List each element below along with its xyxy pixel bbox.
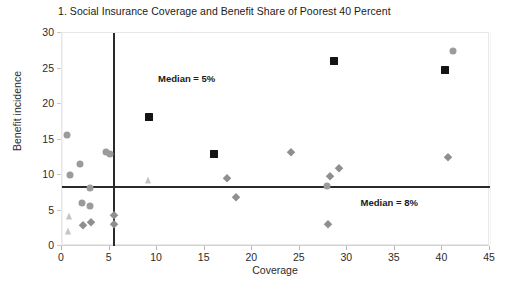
x-tick-label: 35: [379, 251, 409, 263]
y-tick-label: 0: [32, 239, 54, 251]
y-tick-label: 5: [32, 204, 54, 216]
data-point-diamond: [335, 164, 343, 172]
x-axis-title: Coverage: [61, 264, 489, 276]
data-point-diamond: [444, 153, 452, 161]
y-axis-title: Benefit incidence: [11, 51, 23, 171]
data-point-circle: [106, 151, 113, 158]
median-coverage-label: Median = 5%: [158, 73, 215, 84]
data-point-square: [330, 57, 338, 65]
x-axis-line: [61, 245, 489, 246]
data-point-circle: [86, 185, 93, 192]
x-tick-label: 0: [46, 251, 76, 263]
data-point-diamond: [79, 222, 87, 230]
data-point-diamond: [87, 218, 95, 226]
median-benefit-incidence-line: [62, 186, 490, 188]
data-point-diamond: [224, 174, 232, 182]
data-point-diamond: [232, 193, 240, 201]
data-point-square: [441, 66, 449, 74]
data-point-square: [210, 150, 218, 158]
x-tick-mark: [156, 246, 157, 250]
data-point-circle: [449, 47, 456, 54]
x-tick-label: 20: [236, 251, 266, 263]
data-point-diamond: [326, 173, 334, 181]
x-tick-mark: [346, 246, 347, 250]
y-tick-label: 10: [32, 168, 54, 180]
x-tick-label: 15: [189, 251, 219, 263]
x-tick-mark: [251, 246, 252, 250]
median-benefit-incidence-label: Median = 8%: [361, 197, 418, 208]
chart-figure: 1. Social Insurance Coverage and Benefit…: [0, 0, 516, 291]
chart-title: 1. Social Insurance Coverage and Benefit…: [58, 5, 391, 17]
x-tick-mark: [394, 246, 395, 250]
x-tick-label: 40: [426, 251, 456, 263]
x-tick-label: 5: [94, 251, 124, 263]
y-tick-label: 25: [32, 62, 54, 74]
x-tick-mark: [109, 246, 110, 250]
plot-area: [61, 32, 489, 245]
data-point-circle: [63, 132, 70, 139]
gridline: [62, 33, 63, 244]
data-point-triangle: [145, 176, 151, 183]
x-tick-mark: [61, 246, 62, 250]
y-tick-label: 30: [32, 26, 54, 38]
data-point-triangle: [65, 228, 71, 235]
x-tick-mark: [299, 246, 300, 250]
x-tick-label: 30: [331, 251, 361, 263]
data-point-circle: [66, 172, 73, 179]
x-tick-mark: [489, 246, 490, 250]
y-tick-label: 20: [32, 97, 54, 109]
data-point-circle: [78, 199, 85, 206]
x-tick-label: 10: [141, 251, 171, 263]
x-tick-mark: [441, 246, 442, 250]
data-point-diamond: [110, 220, 118, 228]
y-tick-label: 15: [32, 133, 54, 145]
data-point-diamond: [324, 220, 332, 228]
gridline: [490, 33, 491, 244]
data-point-square: [145, 113, 153, 121]
data-point-circle: [77, 160, 84, 167]
data-point-triangle: [66, 213, 72, 220]
data-point-circle: [86, 202, 93, 209]
data-point-diamond: [287, 148, 295, 156]
data-point-diamond: [110, 211, 118, 219]
x-tick-mark: [204, 246, 205, 250]
x-tick-label: 25: [284, 251, 314, 263]
data-point-circle: [324, 183, 331, 190]
x-tick-label: 45: [474, 251, 504, 263]
